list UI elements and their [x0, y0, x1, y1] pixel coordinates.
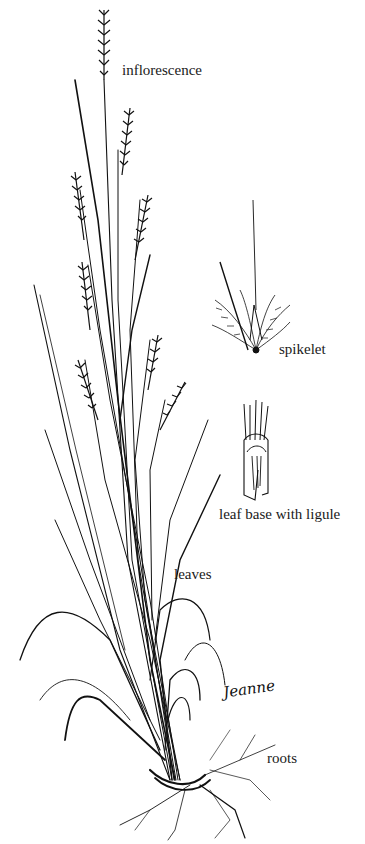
botanical-illustration: inflorescence spikelet leaf base with li…	[0, 0, 365, 844]
grass-plant-drawing	[0, 0, 365, 844]
ligule-drawing	[244, 400, 268, 500]
label-leaf-base-with-ligule: leaf base with ligule	[219, 507, 340, 522]
label-leaves: leaves	[174, 567, 211, 582]
spike	[98, 10, 110, 80]
spikelet-drawing	[212, 200, 290, 353]
label-roots: roots	[267, 751, 297, 766]
label-spikelet: spikelet	[279, 342, 326, 357]
label-inflorescence: inflorescence	[122, 63, 202, 78]
